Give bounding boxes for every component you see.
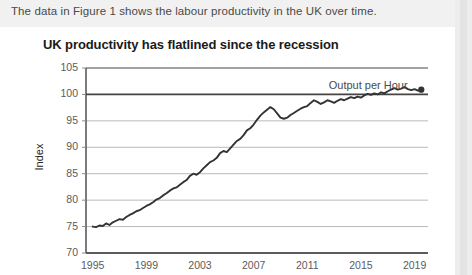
y-tick-label-80: 80 [48, 193, 78, 205]
screenshot-page: The data in Figure 1 shows the labour pr… [0, 0, 472, 275]
line-chart-svg [13, 27, 455, 275]
series-line-output-per-hour [93, 87, 422, 227]
header-band: The data in Figure 1 shows the labour pr… [0, 0, 472, 27]
scroll-gutter [455, 0, 472, 275]
x-tick-label-1999: 1999 [126, 259, 166, 271]
x-tick-label-2003: 2003 [180, 259, 220, 271]
y-tick-label-95: 95 [48, 114, 78, 126]
x-tick-label-1995: 1995 [73, 259, 113, 271]
x-tick-label-2019: 2019 [395, 259, 435, 271]
y-tick-label-100: 100 [48, 87, 78, 99]
x-tick-label-2015: 2015 [341, 259, 381, 271]
chart-plot-area: Index 707580859095100105 199519992003200… [13, 27, 455, 275]
y-tick-label-70: 70 [48, 246, 78, 258]
x-tick-label-2007: 2007 [234, 259, 274, 271]
y-tick-label-85: 85 [48, 167, 78, 179]
header-question-text: The data in Figure 1 shows the labour pr… [11, 5, 377, 17]
y-tick-label-75: 75 [48, 220, 78, 232]
scrollbar-track[interactable] [460, 0, 467, 275]
series-end-marker [418, 87, 424, 93]
legend-label-output-per-hour: Output per Hour [329, 79, 408, 91]
y-tick-label-90: 90 [48, 140, 78, 152]
figure-card: UK productivity has flatlined since the … [13, 27, 455, 275]
x-tick-label-2011: 2011 [287, 259, 327, 271]
y-tick-label-105: 105 [48, 61, 78, 73]
